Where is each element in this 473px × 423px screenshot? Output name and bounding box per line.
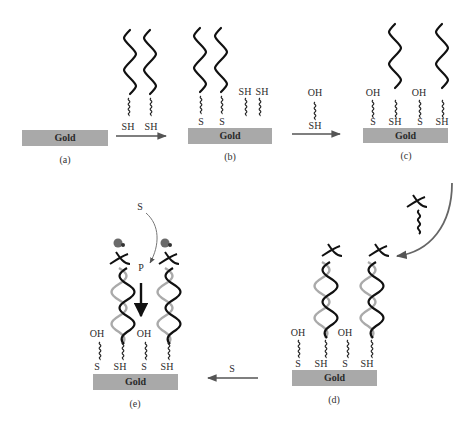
- panel-b-strands: [194, 28, 261, 116]
- caption-a: (a): [59, 154, 70, 165]
- probe-right-icon: [161, 239, 170, 248]
- caption-c: (c): [400, 150, 411, 161]
- e-label-sh-1: SH: [114, 362, 127, 372]
- enzyme-substrate-label: S: [137, 202, 143, 212]
- arrow-a-to-b-strands: [124, 30, 156, 116]
- e-label-oh-2: OH: [137, 329, 151, 339]
- probe-left-icon: [114, 239, 123, 248]
- b-label-sh-1: SH: [239, 87, 252, 97]
- arrow2-label-oh: OH: [308, 88, 322, 98]
- substrate-to-product-arrow: [146, 213, 157, 263]
- e-label-s-2: S: [141, 362, 147, 372]
- target-strand-icon: [407, 195, 427, 234]
- e-label-s-1: S: [94, 362, 100, 372]
- e-label-sh-2: SH: [161, 362, 174, 372]
- e-label-oh-1: OH: [90, 329, 104, 339]
- diagram-canvas: [0, 0, 473, 423]
- c-label-oh-2: OH: [412, 88, 426, 98]
- d-label-sh-1: SH: [315, 359, 328, 369]
- arrow1-label-sh-1: SH: [122, 122, 135, 132]
- b-label-s-1: S: [198, 117, 204, 127]
- panel-d-strands: [298, 244, 389, 358]
- gold-substrate-e: Gold: [93, 374, 178, 390]
- gold-substrate-b: Gold: [188, 128, 272, 144]
- c-label-sh-1: SH: [389, 117, 402, 127]
- caption-d: (d): [328, 394, 340, 405]
- c-label-sh-2: SH: [436, 117, 449, 127]
- caption-e: (e): [129, 398, 140, 409]
- arrow4-label-s: S: [229, 364, 235, 374]
- d-label-sh-2: SH: [361, 359, 374, 369]
- panel-c-strands: [372, 24, 448, 118]
- d-label-oh-1: OH: [291, 328, 305, 338]
- gold-substrate-c: Gold: [363, 128, 448, 143]
- d-label-s-2: S: [342, 359, 348, 369]
- b-label-sh-2: SH: [256, 87, 269, 97]
- d-label-s-1: S: [295, 359, 301, 369]
- enzyme-product-label: P: [138, 263, 144, 273]
- c-label-s-2: S: [417, 117, 423, 127]
- gold-substrate-d: Gold: [292, 370, 377, 386]
- c-label-oh-1: OH: [366, 88, 380, 98]
- caption-b: (b): [224, 151, 236, 162]
- gold-substrate-a: Gold: [22, 130, 108, 146]
- b-label-s-2: S: [219, 117, 225, 127]
- arrow-c-to-d: [397, 183, 452, 256]
- arrow2-label-sh: SH: [309, 121, 322, 131]
- d-label-oh-2: OH: [338, 328, 352, 338]
- arrow1-label-sh-2: SH: [145, 122, 158, 132]
- c-label-s-1: S: [370, 117, 376, 127]
